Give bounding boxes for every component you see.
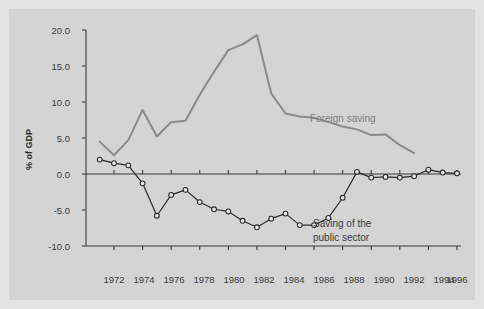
x-tick-label: 1982 xyxy=(248,274,280,285)
x-tick-label: 1980 xyxy=(218,274,250,285)
annotation-public-sector-line2: public sector xyxy=(313,232,369,244)
x-tick-label: 1974 xyxy=(128,274,160,285)
x-tick-label: 1972 xyxy=(98,274,130,285)
y-tick-label: -10.0 xyxy=(26,241,70,252)
y-tick-label: 10.0 xyxy=(34,97,70,108)
y-tick-label: 0.0 xyxy=(34,169,70,180)
annotation-public-sector-line1: Saving of the xyxy=(313,218,371,230)
x-tick-label: 1988 xyxy=(338,274,370,285)
line-chart xyxy=(0,0,484,309)
y-tick-label: 15.0 xyxy=(34,61,70,72)
x-tick-label: 1992 xyxy=(398,274,430,285)
x-tick-label: 1978 xyxy=(188,274,220,285)
x-tick-label: 1986 xyxy=(308,274,340,285)
x-tick-label: 1984 xyxy=(278,274,310,285)
y-tick-label: 20.0 xyxy=(34,25,70,36)
annotation-foreign-saving: Foreign saving xyxy=(310,113,376,125)
x-tick-label: 1996 xyxy=(441,274,473,285)
y-axis-title: % of GDP xyxy=(24,129,34,170)
x-tick-label: 1976 xyxy=(158,274,190,285)
y-tick-label: -5.0 xyxy=(30,205,70,216)
y-tick-label: 5.0 xyxy=(34,133,70,144)
x-tick-label: 1990 xyxy=(368,274,400,285)
